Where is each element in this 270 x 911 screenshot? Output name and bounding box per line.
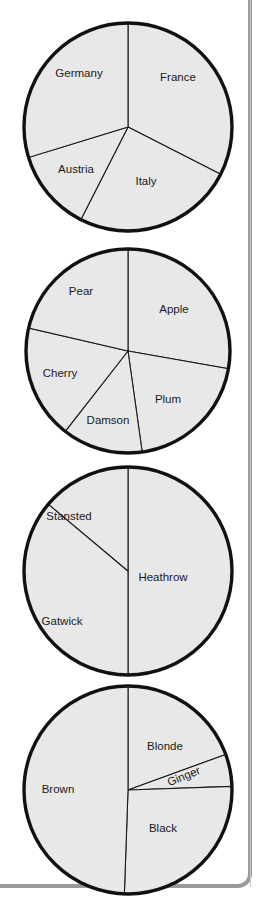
pie-chart-stack: FranceItalyAustriaGermanyApplePlumDamson…: [0, 0, 270, 911]
countries-pie: FranceItalyAustriaGermany: [16, 15, 240, 239]
slice-label-apple: Apple: [159, 303, 188, 315]
slice-label-gatwick: Gatwick: [42, 615, 83, 627]
slice-label-brown: Brown: [42, 783, 75, 795]
slice-label-germany: Germany: [55, 67, 103, 79]
slice-label-damson: Damson: [87, 414, 130, 426]
slice-label-black: Black: [149, 822, 177, 834]
slice-label-blonde: Blonde: [147, 740, 183, 752]
airports-pie: HeathrowGatwickStansted: [16, 459, 240, 683]
fruit-pie-svg: ApplePlumDamsonCherryPear: [18, 241, 238, 461]
slice-label-cherry: Cherry: [43, 367, 78, 379]
slice-label-france: France: [160, 71, 196, 83]
pie-slice-brown[interactable]: [24, 686, 128, 894]
slice-label-heathrow: Heathrow: [138, 571, 188, 583]
hair-colour-pie: BlondeGingerBlackBrown: [16, 678, 240, 902]
slice-label-stansted: Stansted: [46, 510, 91, 522]
hair-colour-pie-svg: BlondeGingerBlackBrown: [16, 678, 240, 902]
countries-pie-svg: FranceItalyAustriaGermany: [16, 15, 240, 239]
fruit-pie: ApplePlumDamsonCherryPear: [18, 241, 238, 461]
airports-pie-svg: HeathrowGatwickStansted: [16, 459, 240, 683]
slice-label-pear: Pear: [69, 285, 93, 297]
slice-label-italy: Italy: [135, 175, 156, 187]
pie-slice-black[interactable]: [124, 786, 232, 894]
slice-label-austria: Austria: [58, 163, 94, 175]
slice-label-plum: Plum: [155, 393, 181, 405]
